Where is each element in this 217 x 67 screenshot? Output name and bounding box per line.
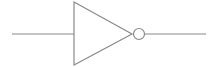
not-gate-diagram [0, 0, 217, 67]
gate-triangle [74, 2, 132, 65]
inversion-bubble [134, 29, 145, 40]
